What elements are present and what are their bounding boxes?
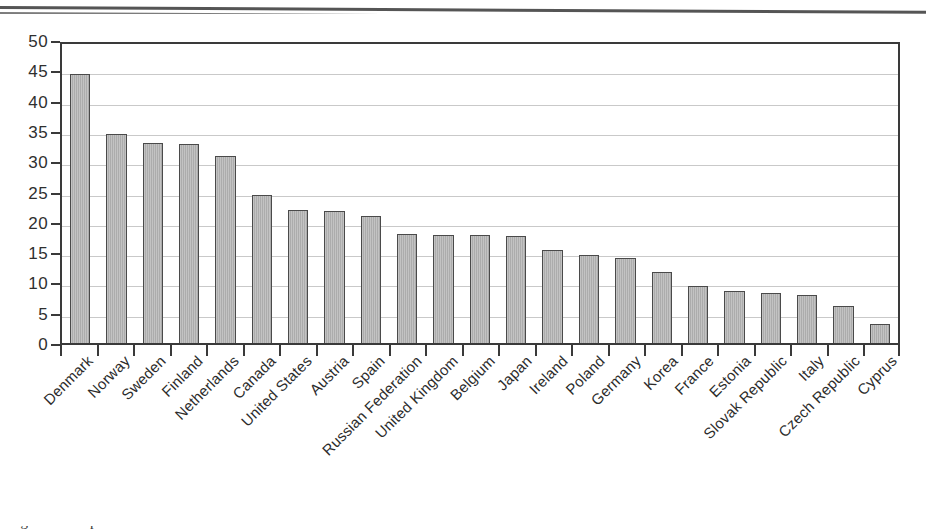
bar-slot xyxy=(425,44,461,343)
figure-root: 05101520253035404550 DenmarkNorwaySweden… xyxy=(0,0,926,532)
y-axis: 05101520253035404550 xyxy=(0,42,60,345)
bar-slot xyxy=(607,44,643,343)
bar xyxy=(179,144,199,343)
bar-slot xyxy=(571,44,607,343)
bar xyxy=(470,235,490,343)
y-tick-mark xyxy=(51,193,60,195)
bar-slot xyxy=(389,44,425,343)
x-tick-label: Cyprus xyxy=(853,352,899,398)
bar-slot xyxy=(716,44,752,343)
bar xyxy=(397,234,417,343)
bar-slot xyxy=(171,44,207,343)
y-tick-mark xyxy=(51,71,60,73)
y-tick-label: 25 xyxy=(28,184,48,204)
x-tick-label: Ireland xyxy=(526,352,571,397)
y-tick-mark xyxy=(51,314,60,316)
bar-slot xyxy=(353,44,389,343)
bar xyxy=(615,258,635,343)
bar-slot xyxy=(62,44,98,343)
bar xyxy=(288,210,308,343)
bar xyxy=(761,293,781,343)
bar xyxy=(652,272,672,343)
bar xyxy=(106,134,126,343)
y-tick-label: 35 xyxy=(28,123,48,143)
bar-slot xyxy=(98,44,134,343)
bar-slot xyxy=(534,44,570,343)
bar xyxy=(361,216,381,343)
bar-slot xyxy=(644,44,680,343)
y-tick-mark xyxy=(51,344,60,346)
bar-slot xyxy=(135,44,171,343)
y-tick-mark xyxy=(51,162,60,164)
bar-series xyxy=(62,44,898,343)
y-tick-label: 0 xyxy=(38,335,48,355)
y-tick-mark xyxy=(51,102,60,104)
y-tick-label: 5 xyxy=(38,305,48,325)
bar xyxy=(215,156,235,343)
y-tick-mark xyxy=(51,41,60,43)
bar xyxy=(579,255,599,344)
bar xyxy=(724,291,744,343)
y-tick-mark xyxy=(51,223,60,225)
bar-slot xyxy=(753,44,789,343)
bar-slot xyxy=(316,44,352,343)
bar-slot xyxy=(280,44,316,343)
bar xyxy=(688,286,708,343)
bar xyxy=(70,74,90,343)
bar-slot xyxy=(825,44,861,343)
figure-caption-text: Figure 2.1 Expenditure on ... xyxy=(8,526,180,530)
y-tick-mark xyxy=(51,253,60,255)
y-tick-label: 50 xyxy=(28,32,48,52)
bar xyxy=(143,143,163,343)
y-tick-label: 10 xyxy=(28,274,48,294)
bar xyxy=(506,236,526,343)
y-tick-label: 45 xyxy=(28,62,48,82)
figure-caption: Figure 2.1 Expenditure on ... xyxy=(8,526,568,532)
y-tick-mark xyxy=(51,283,60,285)
bar xyxy=(870,324,890,343)
bar-slot xyxy=(680,44,716,343)
x-tick-label: Austria xyxy=(306,352,352,398)
y-tick-label: 30 xyxy=(28,153,48,173)
bar-slot xyxy=(498,44,534,343)
plot-area xyxy=(60,42,900,345)
bar xyxy=(797,295,817,343)
x-tick-label: Denmark xyxy=(40,352,96,408)
bar-slot xyxy=(462,44,498,343)
y-tick-label: 20 xyxy=(28,214,48,234)
bar xyxy=(542,250,562,343)
bar xyxy=(324,211,344,343)
bar xyxy=(833,306,853,343)
bar-slot xyxy=(862,44,898,343)
y-tick-label: 15 xyxy=(28,244,48,264)
bar-slot xyxy=(789,44,825,343)
bar-slot xyxy=(244,44,280,343)
page-divider-rule xyxy=(0,5,926,14)
x-axis-labels: DenmarkNorwaySwedenFinlandNetherlandsCan… xyxy=(60,352,900,492)
bar-slot xyxy=(207,44,243,343)
bar xyxy=(433,235,453,343)
bar xyxy=(252,195,272,343)
y-tick-mark xyxy=(51,132,60,134)
y-tick-label: 40 xyxy=(28,93,48,113)
